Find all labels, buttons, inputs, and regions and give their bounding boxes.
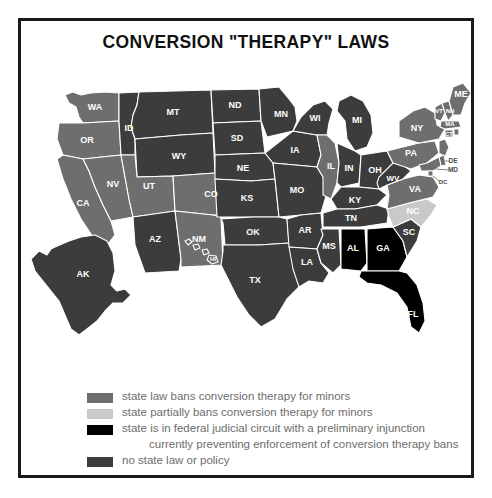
legend-item-none: no state law or policy [87,453,467,468]
state-IA[interactable] [265,131,321,167]
state-FL[interactable] [359,271,425,333]
legend-swatch-injunction [87,425,113,435]
legend-swatch-spacer [87,441,113,451]
state-NE[interactable] [215,153,275,181]
state-ND[interactable] [211,89,261,123]
legend-item-injunction-cont: currently preventing enforcement of conv… [87,437,467,452]
legend-swatch-none [87,457,113,467]
state-label-DC: DC [439,179,448,185]
legend-label-ban: state law bans conversion therapy for mi… [122,389,350,404]
state-label-DE: DE [448,157,458,164]
state-WY[interactable] [135,133,215,177]
state-ME[interactable] [449,83,471,115]
legend-label-none: no state law or policy [122,453,229,468]
state-DC[interactable] [428,171,433,176]
leader-NJ [449,145,453,146]
state-KS[interactable] [215,179,279,217]
state-label-NJ: NJ [451,142,459,148]
state-MI[interactable] [337,95,373,151]
state-AL[interactable] [341,229,367,271]
page-title: CONVERSION "THERAPY" LAWS [39,31,453,53]
state-MT[interactable] [131,90,213,139]
state-AK[interactable] [31,235,131,335]
legend-item-ban: state law bans conversion therapy for mi… [87,389,467,404]
us-map-svg: WA OR CA NV ID MT WY UT CO AZ NM ND SD N… [21,59,471,381]
state-SD[interactable] [213,121,265,155]
state-label-MD: MD [448,166,458,173]
map-figure-frame: CONVERSION "THERAPY" LAWS [18,18,474,478]
legend-swatch-ban [87,393,113,403]
map-legend: state law bans conversion therapy for mi… [87,389,467,469]
state-WI[interactable] [293,101,333,135]
us-choropleth-map: WA OR CA NV ID MT WY UT CO AZ NM ND SD N… [21,59,471,381]
state-WA[interactable] [65,92,119,123]
state-MN[interactable] [259,87,297,137]
state-OR[interactable] [57,121,121,159]
legend-label-injunction: state is in federal judicial circuit wit… [122,421,425,436]
state-CT[interactable] [445,130,453,137]
legend-label-partial: state partially bans conversion therapy … [122,405,373,420]
legend-item-partial: state partially bans conversion therapy … [87,405,467,420]
legend-label-injunction-cont: currently preventing enforcement of conv… [122,437,458,452]
state-NJ[interactable] [439,139,449,157]
state-TN[interactable] [323,205,389,227]
state-MA[interactable] [440,121,461,129]
legend-swatch-partial [87,409,113,419]
state-OK[interactable] [221,217,289,245]
state-AZ[interactable] [133,211,181,273]
state-AR[interactable] [287,213,323,249]
legend-item-injunction: state is in federal judicial circuit wit… [87,421,467,436]
leader-MD [435,169,449,170]
